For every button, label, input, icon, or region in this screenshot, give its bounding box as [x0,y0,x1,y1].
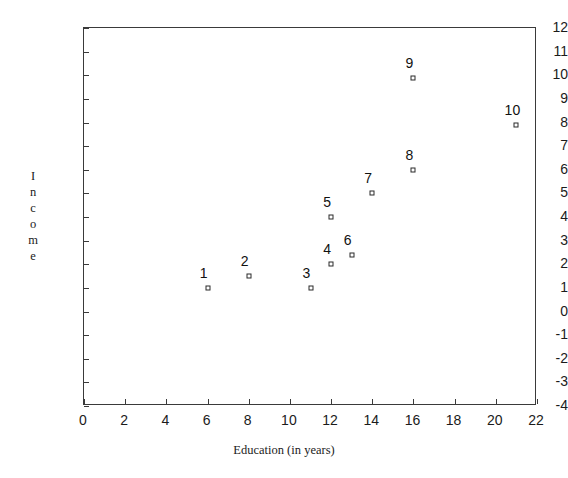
y-axis-tick-label: -4 [491,398,568,412]
data-point-label: 3 [303,266,311,280]
data-point-marker [329,262,334,267]
data-point-marker [246,274,251,279]
data-point-label: 4 [323,242,331,256]
x-axis-tick-label: 14 [363,413,379,427]
y-axis-tick [84,170,89,171]
y-axis-title: Income [22,168,44,264]
x-axis-tick [84,399,85,404]
y-axis-tick-label: 8 [491,115,568,129]
x-axis-tick-label: 4 [161,413,169,427]
scatter-plot-figure: 12345678910 -4-3-2-10123456789101112 024… [0,0,568,478]
x-axis-tick-label: 0 [79,413,87,427]
x-axis-title: Education (in years) [0,443,568,458]
y-axis-tick [84,123,89,124]
y-axis-tick [84,264,89,265]
y-axis-tick [84,312,89,313]
x-axis-tick-label: 18 [446,413,462,427]
y-axis-tick-label: 9 [491,91,568,105]
y-axis-tick [84,359,89,360]
y-axis-tick-label: 10 [491,67,568,81]
y-axis-tick [84,382,89,383]
x-axis-tick [413,399,414,404]
y-axis-title-letter: n [22,184,44,200]
y-axis-tick [84,28,89,29]
x-axis-tick [166,399,167,404]
data-point-marker [329,215,334,220]
data-point-marker [370,191,375,196]
y-axis-tick [84,52,89,53]
y-axis-tick-label: 0 [491,304,568,318]
data-point-label: 2 [241,254,249,268]
y-axis-tick-label: 11 [491,44,568,58]
x-axis-tick [208,399,209,404]
data-point-label: 6 [344,233,352,247]
data-point-marker [205,285,210,290]
y-axis-tick [84,75,89,76]
y-axis-tick [84,193,89,194]
x-axis-tick-label: 20 [487,413,503,427]
y-axis-tick-label: -1 [491,327,568,341]
y-axis-tick [84,288,89,289]
y-axis-tick [84,335,89,336]
y-axis-tick [84,217,89,218]
y-axis-tick-label: 3 [491,233,568,247]
data-point-label: 5 [323,195,331,209]
x-axis-tick-label: 12 [322,413,338,427]
y-axis-tick [84,406,89,407]
x-axis-tick-label: 10 [281,413,297,427]
x-axis-tick [125,399,126,404]
data-point-label: 8 [406,148,414,162]
data-point-label: 1 [200,266,208,280]
y-axis-tick-label: -3 [491,374,568,388]
data-point-marker [411,75,416,80]
x-axis-tick [290,399,291,404]
y-axis-tick [84,146,89,147]
x-axis-tick [331,399,332,404]
data-point-marker [411,167,416,172]
y-axis-tick [84,241,89,242]
y-axis-tick-label: 12 [491,20,568,34]
data-point-label: 9 [406,56,414,70]
y-axis-title-letter: o [22,216,44,232]
plot-area: 12345678910 [83,27,536,405]
x-axis-tick [372,399,373,404]
data-point-marker [349,252,354,257]
x-axis-tick-label: 8 [244,413,252,427]
y-axis-tick-label: 6 [491,162,568,176]
x-axis-tick [455,399,456,404]
y-axis-tick-label: 1 [491,280,568,294]
data-point-label: 7 [364,171,372,185]
y-axis-title-letter: m [22,232,44,248]
x-axis-tick-label: 16 [405,413,421,427]
y-axis-tick-label: -2 [491,351,568,365]
data-point-marker [308,285,313,290]
x-axis-tick-label: 22 [528,413,544,427]
y-axis-tick-label: 4 [491,209,568,223]
y-axis-tick [84,99,89,100]
y-axis-tick-label: 2 [491,256,568,270]
y-axis-title-letter: I [22,168,44,184]
x-axis-tick-label: 6 [203,413,211,427]
y-axis-title-letter: c [22,200,44,216]
x-axis-tick-label: 2 [120,413,128,427]
y-axis-tick-label: 5 [491,185,568,199]
y-axis-tick-label: 7 [491,138,568,152]
y-axis-title-letter: e [22,248,44,264]
x-axis-tick [249,399,250,404]
